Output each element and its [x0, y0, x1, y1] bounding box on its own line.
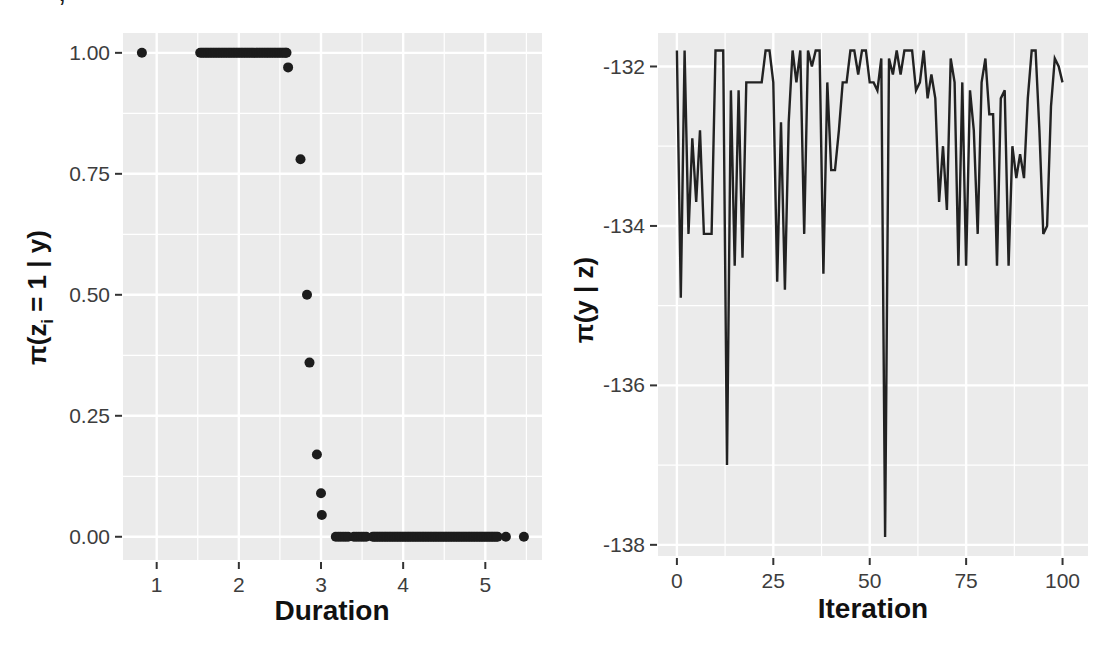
x-tick-label: 1 — [151, 573, 163, 596]
data-point — [302, 290, 312, 300]
x-tick-label: 25 — [762, 569, 785, 592]
y-tick-label: -132 — [603, 55, 645, 78]
x-tick-label: 4 — [397, 573, 409, 596]
y-axis-title-text: = 1 | — [22, 253, 52, 319]
y-axis-title: π(y | z) — [565, 140, 603, 460]
data-point — [316, 488, 326, 498]
scatter-plot: 123450.000.250.500.751.00 — [0, 0, 565, 655]
x-tick-label: 0 — [671, 569, 683, 592]
x-tick-label: 5 — [479, 573, 491, 596]
y-tick-labels: -138-136-134-132 — [603, 55, 645, 556]
y-axis-title-text: π( — [569, 315, 599, 344]
y-axis-title-text: π( — [22, 337, 52, 366]
x-tick-label: 3 — [315, 573, 327, 596]
y-tick-label: 1.00 — [69, 41, 110, 64]
line-plot: 0255075100-138-136-134-132 — [565, 0, 1111, 655]
y-axis-title-text: | — [569, 278, 599, 300]
y-tick-label: -136 — [603, 373, 645, 396]
y-tick-labels: 0.000.250.500.751.00 — [69, 41, 110, 548]
x-axis-title: Duration — [182, 596, 482, 626]
y-tick-label: 0.50 — [69, 283, 110, 306]
variable-y: y — [22, 239, 52, 253]
x-tick-labels: 12345 — [151, 573, 491, 596]
y-axis-title-text: ) — [569, 257, 599, 266]
figure-canvas: , . 123450.000.250.500.751.00 π(zi = 1 |… — [0, 0, 1111, 655]
variable-z: z — [569, 265, 599, 278]
y-tick-label: -138 — [603, 533, 645, 556]
subscript-i: i — [38, 319, 56, 323]
panel-background — [658, 33, 1088, 556]
posterior-probability-chart: 123450.000.250.500.751.00 π(zi = 1 | y) … — [0, 0, 565, 655]
variable-z: z — [22, 324, 52, 337]
y-tick-label: 0.25 — [69, 404, 110, 427]
variable-y: y — [569, 300, 599, 314]
data-point — [317, 510, 327, 520]
y-axis-title: π(zi = 1 | y) — [18, 138, 65, 458]
panel-background — [123, 33, 542, 560]
y-tick-label: 0.00 — [69, 525, 110, 548]
x-tick-label: 2 — [233, 573, 245, 596]
x-tick-label: 75 — [954, 569, 977, 592]
x-tick-labels: 0255075100 — [671, 569, 1080, 592]
data-point — [312, 450, 322, 460]
data-point — [137, 48, 147, 58]
x-axis-title: Iteration — [723, 594, 1023, 624]
y-tick-label: -134 — [603, 214, 645, 237]
y-axis-title-text: ) — [22, 230, 52, 239]
trace-plot-chart: 0255075100-138-136-134-132 π(y | z) Iter… — [565, 0, 1111, 655]
data-point — [501, 532, 511, 542]
data-point — [296, 154, 306, 164]
data-point — [305, 358, 315, 368]
data-point — [519, 532, 529, 542]
x-tick-label: 50 — [858, 569, 881, 592]
data-point — [283, 62, 293, 72]
x-tick-label: 100 — [1045, 569, 1080, 592]
y-tick-label: 0.75 — [69, 162, 110, 185]
data-point — [282, 48, 292, 58]
